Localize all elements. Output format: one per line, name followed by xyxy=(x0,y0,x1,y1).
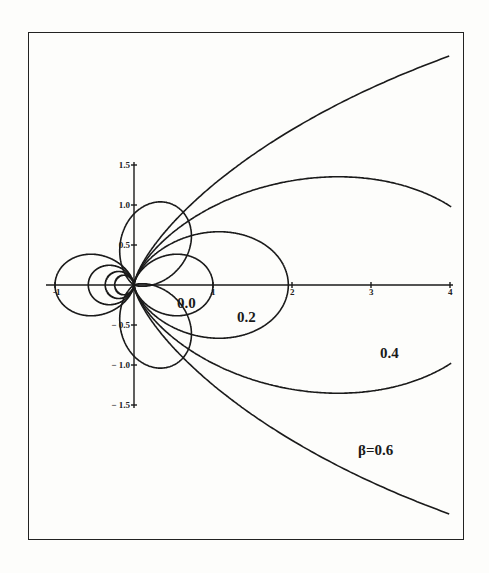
y-tick-label: 1.5 xyxy=(119,160,131,170)
label-beta-0.6: β=0.6 xyxy=(358,442,394,458)
x-tick-label: 2 xyxy=(290,287,295,297)
label-beta-0.0: 0.0 xyxy=(177,295,196,311)
label-beta-0.2: 0.2 xyxy=(237,309,256,325)
x-tick-label: 3 xyxy=(369,287,374,297)
polar-chart: -112341.51.00.5− 0.5− 1.0− 1.5 0.0 0.2 0… xyxy=(0,0,489,573)
y-tick-label: − 1.0 xyxy=(111,360,130,370)
axes: -112341.51.00.5− 0.5− 1.0− 1.5 xyxy=(46,160,453,410)
curve-labels: 0.0 0.2 0.4 β=0.6 xyxy=(177,295,399,458)
x-tick-label: 4 xyxy=(448,287,453,297)
y-tick-label: − 1.5 xyxy=(111,400,130,410)
label-beta-0.4: 0.4 xyxy=(380,345,399,361)
y-tick-label: 1.0 xyxy=(119,200,131,210)
